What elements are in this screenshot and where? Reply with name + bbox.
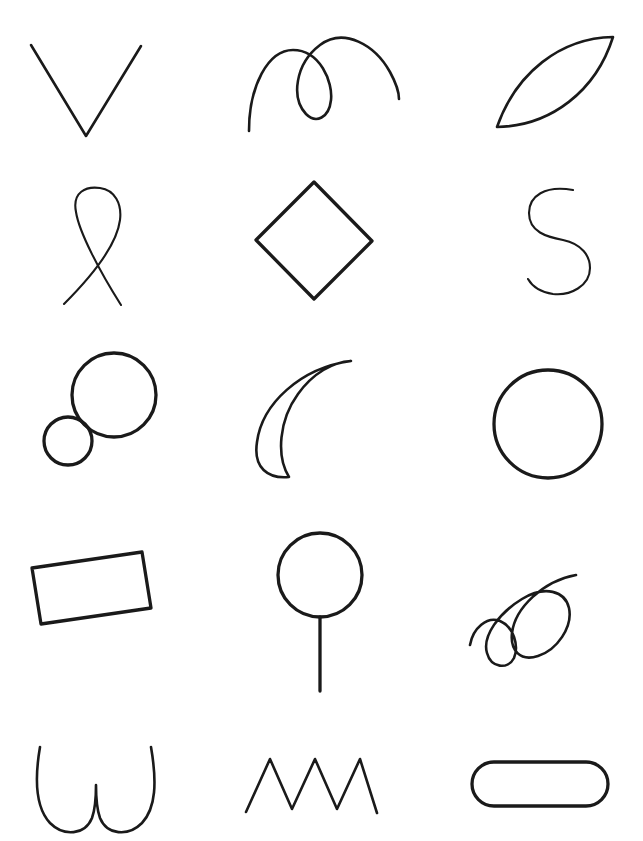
shape-grid [0,0,643,841]
sketch-page: ·· [0,0,643,841]
rounded-pill-rectangle-path [472,762,608,806]
shape-rounded-pill-rectangle [0,0,643,841]
